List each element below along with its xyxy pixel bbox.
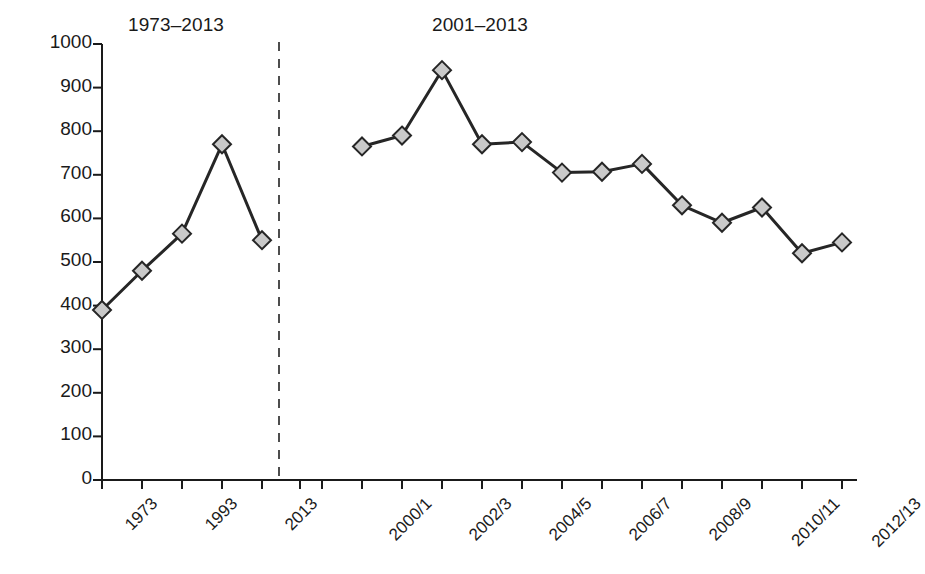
x-axis-tick-label: 1973 — [121, 494, 162, 535]
x-axis-tick-label: 2012/13 — [868, 494, 925, 552]
x-axis-tick-label: 2006/7 — [625, 494, 676, 545]
x-axis-tick-label: 2013 — [281, 494, 322, 535]
x-axis-tick-label: 1993 — [201, 494, 242, 535]
x-axis-tick-label: 2008/9 — [705, 494, 756, 545]
x-axis-tick-label: 2004/5 — [545, 494, 596, 545]
x-axis-tick-label: 2010/11 — [788, 494, 845, 551]
x-axis-tick-label: 2002/3 — [465, 494, 516, 545]
x-axis-tick-label: 2000/1 — [385, 494, 436, 545]
